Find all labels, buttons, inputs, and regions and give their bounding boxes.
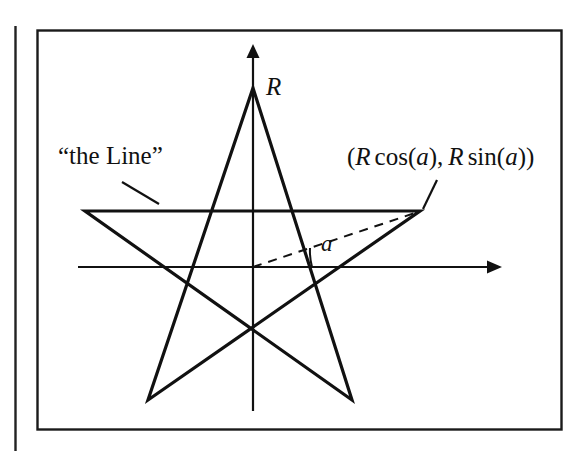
coords-sin-close: ) [518,143,526,170]
coords-sin-open: ( [497,143,505,170]
coords-close-paren: ) [526,143,534,170]
geometry-diagram-svg [0,0,588,451]
coords-r-second: R [448,143,463,170]
coords-r-first: R [355,143,370,170]
figure-container: “the Line” R a (Rcos(a),Rsin(a)) [0,0,588,451]
coords-cos-arg: a [416,143,429,170]
label-radius-r: R [266,74,281,99]
coords-sin-arg: a [505,143,518,170]
label-the-line: “the Line” [58,143,163,168]
coords-cos-name: cos [375,143,408,170]
label-point-coordinates: (Rcos(a),Rsin(a)) [347,144,534,169]
coords-sin-name: sin [468,143,497,170]
coords-comma: , [437,143,443,170]
coords-cos-close: ) [429,143,437,170]
label-angle-a: a [321,232,333,255]
